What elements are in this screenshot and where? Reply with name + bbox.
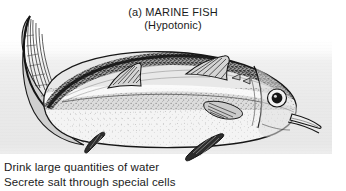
figure-container: (a) MARINE FISH (Hypotonic)	[0, 0, 346, 191]
caption-line-2: Secrete salt through special cells	[4, 175, 344, 190]
mouth-icon	[288, 114, 321, 133]
caption-line-1: Drink large quantities of water	[4, 160, 344, 175]
eye-icon	[268, 89, 287, 107]
illustration-panel	[0, 40, 332, 154]
marine-fish-illustration	[0, 2, 346, 162]
figure-caption: Drink large quantities of water Secrete …	[4, 160, 344, 190]
